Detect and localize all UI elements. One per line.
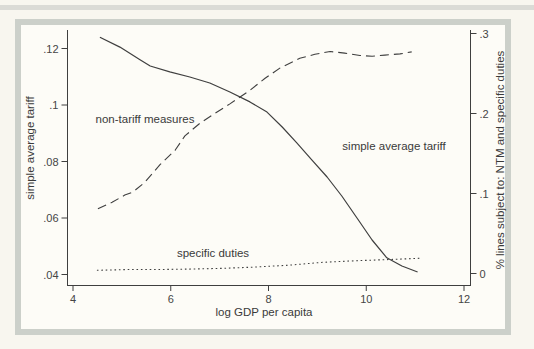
x-tick-label: 12 <box>458 293 470 305</box>
left-tick-label: .12 <box>43 43 58 55</box>
x-tick-label: 4 <box>70 293 76 305</box>
x-tick-label: 8 <box>265 293 271 305</box>
annotation-simple-average-tariff: simple average tariff <box>342 140 445 152</box>
right-tick-label: 0 <box>480 268 486 280</box>
left-axis-title: simple average tariff <box>24 96 36 199</box>
left-tick-label: .1 <box>49 99 58 111</box>
right-tick-label: .1 <box>480 188 489 200</box>
left-tick-label: .08 <box>43 156 58 168</box>
series-specific-duties <box>97 258 420 270</box>
annotation-non-tariff-measures: non-tariff measures <box>96 113 195 125</box>
left-tick-label: .06 <box>43 212 58 224</box>
annotation-specific-duties: specific duties <box>177 247 249 259</box>
right-tick-label: .2 <box>480 108 489 120</box>
x-axis-title: log GDP per capita <box>216 306 313 318</box>
series-simple-average-tariff <box>100 37 418 272</box>
series-non-tariff-measures <box>98 52 412 209</box>
x-tick-label: 6 <box>168 293 174 305</box>
left-tick-label: .04 <box>43 269 58 281</box>
x-tick-label: 10 <box>360 293 372 305</box>
scanned-figure-page: .12.1.08.06.04.3.2.104681012 simple aver… <box>0 0 534 349</box>
right-axis-title: % lines subject to: NTM and specific dut… <box>494 51 506 270</box>
chart-plot-area: .12.1.08.06.04.3.2.104681012 <box>0 0 534 349</box>
right-tick-label: .3 <box>480 28 489 40</box>
